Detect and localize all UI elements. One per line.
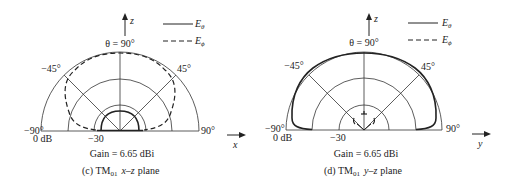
plus45-label: 45° — [177, 63, 191, 74]
radial-minus45 — [64, 75, 120, 131]
minus30-label: −30 — [330, 132, 346, 143]
radial-minus45 — [309, 75, 364, 130]
legend-e-theta: Eθ — [194, 18, 205, 31]
z-arrow-head-icon — [366, 13, 372, 20]
legend-e-phi: Eϕ — [194, 35, 205, 48]
legend-e-theta: Eθ — [441, 17, 452, 30]
radial-45 — [364, 75, 419, 130]
z-axis-label: z — [129, 15, 134, 26]
x-axis-label: x — [232, 139, 238, 150]
gain-label: Gain = 6.65 dBi — [90, 148, 155, 159]
legend-e-phi: Eϕ — [441, 34, 452, 47]
z-arrow-head-icon — [122, 13, 128, 20]
radial-45 — [120, 75, 176, 131]
y-axis-label: y — [477, 138, 483, 149]
zero-db-label: 0 dB — [33, 133, 53, 144]
minus45-label: −45° — [41, 63, 61, 74]
plus45-label: 45° — [421, 61, 435, 72]
panel-c-xz-plane: z θ = 90° −45° 45° −90° 90° 0 dB −30 x G… — [24, 13, 246, 178]
theta-90-label: θ = 90° — [349, 37, 378, 48]
minus30-label: −30 — [88, 133, 104, 144]
zero-db-label: 0 dB — [273, 132, 293, 143]
plus90-label: 90° — [201, 125, 215, 136]
gain-label: Gain = 6.65 dBi — [334, 148, 399, 159]
minus45-label: −45° — [284, 60, 304, 71]
caption: (d) TM01y–zplane — [324, 165, 403, 178]
x-arrow-head-icon — [239, 132, 246, 138]
z-axis-label: z — [373, 13, 378, 24]
caption: (c) TM01x–zplane — [82, 165, 160, 178]
plus90-label: 90° — [446, 123, 460, 134]
y-arrow-head-icon — [484, 131, 491, 137]
radiation-pattern-figure: z θ = 90° −45° 45° −90° 90° 0 dB −30 x G… — [0, 0, 514, 188]
panel-d-yz-plane: z θ = 90° −45° 45° −90° 90° 0 dB −30 y G… — [265, 13, 491, 178]
theta-90-label: θ = 90° — [105, 38, 134, 49]
